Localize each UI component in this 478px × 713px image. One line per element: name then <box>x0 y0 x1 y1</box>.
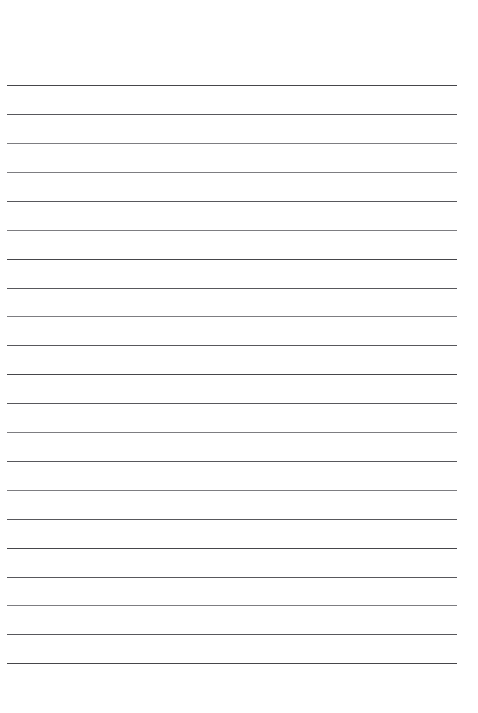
ruled-line <box>7 230 457 231</box>
ruled-line <box>7 577 457 578</box>
ruled-line <box>7 345 457 346</box>
ruled-line <box>7 201 457 202</box>
ruled-line <box>7 143 457 144</box>
ruled-line <box>7 374 457 375</box>
ruled-line <box>7 548 457 549</box>
ruled-line <box>7 461 457 462</box>
ruled-line-area <box>0 0 478 713</box>
ruled-line <box>7 259 457 260</box>
ruled-line <box>7 85 457 86</box>
ruled-line <box>7 316 457 317</box>
ruled-line <box>7 490 457 491</box>
ruled-line <box>7 519 457 520</box>
ruled-line <box>7 114 457 115</box>
bottom-margin <box>0 664 478 713</box>
ruled-line <box>7 172 457 173</box>
ruled-line <box>7 403 457 404</box>
ruled-line <box>7 288 457 289</box>
ruled-line <box>7 605 457 606</box>
ruled-line <box>7 432 457 433</box>
ruled-line <box>7 634 457 635</box>
document-page <box>0 0 478 713</box>
